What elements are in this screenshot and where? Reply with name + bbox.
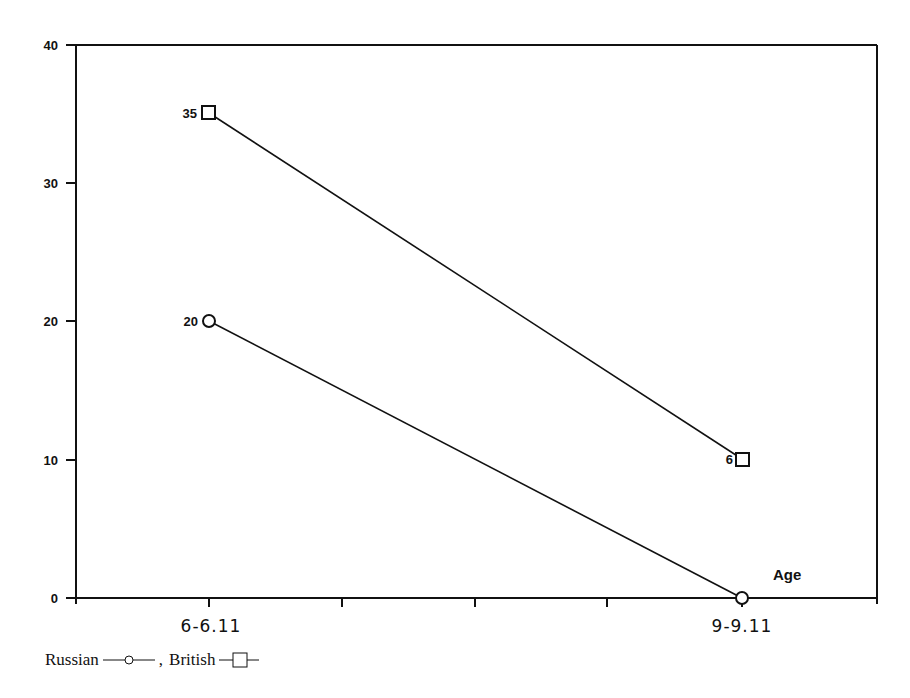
y-tick-labels: 40 30 20 10 0 [44, 38, 58, 606]
x-category-labels: 6-6.11 9-9.11 [181, 616, 773, 636]
square-line-legend-icon [219, 651, 259, 669]
legend-label-british: British [169, 650, 215, 670]
y-tick-label: 10 [44, 453, 58, 468]
x-axis [209, 598, 742, 607]
circle-marker [203, 315, 215, 327]
circle-marker [736, 592, 748, 604]
series-british: 35 6 [183, 106, 749, 467]
point-label: 35 [183, 106, 197, 121]
point-label: 20 [184, 314, 198, 329]
y-tick-label: 0 [51, 591, 58, 606]
legend: Russian , British [45, 650, 263, 670]
legend-separator: , [159, 650, 163, 670]
circle-line-legend-icon [103, 653, 155, 667]
point-label: 6 [726, 452, 733, 467]
y-tick-label: 40 [44, 38, 58, 53]
line-chart: 40 30 20 10 0 6-6.11 9-9.11 Age 35 6 20 [0, 0, 910, 698]
x-axis-title: Age [773, 566, 801, 583]
y-tick-label: 30 [44, 176, 58, 191]
y-tick-label: 20 [44, 314, 58, 329]
square-marker [736, 453, 749, 466]
y-axis [66, 45, 76, 598]
x-category-label: 6-6.11 [181, 616, 242, 636]
square-marker [202, 106, 215, 119]
legend-label-russian: Russian [45, 650, 99, 670]
series-russian: 20 [184, 314, 748, 604]
x-category-label: 9-9.11 [712, 616, 773, 636]
